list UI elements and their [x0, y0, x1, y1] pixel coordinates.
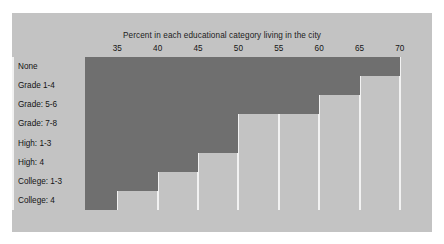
y-axis-label-3: Grade: 7-8: [18, 114, 85, 133]
bar: [85, 191, 117, 210]
y-axis-label-1: Grade 1-4: [18, 76, 85, 95]
bar: [85, 153, 198, 172]
y-axis-label-0: None: [18, 57, 85, 76]
plot-left-edge-line: [12, 57, 14, 210]
bar: [85, 95, 319, 114]
x-tick-label: 45: [193, 44, 202, 53]
x-tick-label: 50: [234, 44, 243, 53]
bar: [85, 172, 158, 191]
y-axis-label-2: Grade: 5-6: [18, 95, 85, 114]
x-tick-label: 70: [395, 44, 404, 53]
bar: [85, 114, 238, 133]
x-tick-label: 55: [274, 44, 283, 53]
chart-figure: Percent in each educational category liv…: [12, 13, 432, 232]
y-axis-category-labels: NoneGrade 1-4Grade: 5-6Grade: 7-8High: 1…: [18, 57, 85, 210]
x-tick-label: 35: [113, 44, 122, 53]
y-axis-label-4: High: 1-3: [18, 134, 85, 153]
y-axis-label-5: High: 4: [18, 153, 85, 172]
x-tick-label: 65: [355, 44, 364, 53]
bar: [85, 76, 360, 95]
bar: [85, 134, 238, 153]
bar: [85, 57, 400, 76]
x-tick-label: 40: [153, 44, 162, 53]
plot-area: [85, 57, 432, 210]
x-tick-label: 60: [315, 44, 324, 53]
y-axis-label-6: College: 1-3: [18, 172, 85, 191]
y-axis-label-7: College: 4: [18, 191, 85, 210]
